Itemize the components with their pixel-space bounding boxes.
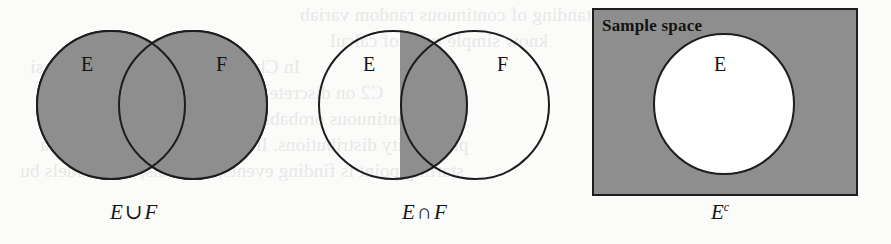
sample-space-label: Sample space bbox=[602, 16, 702, 36]
venn-diagram-figure: complete understanding of continuous ran… bbox=[0, 0, 891, 244]
caption-complement: Ec bbox=[711, 200, 729, 225]
caption-complement-superscript: c bbox=[724, 200, 729, 214]
complement-label-e: E bbox=[714, 53, 726, 76]
caption-complement-base: E bbox=[711, 200, 724, 224]
panel-complement: Sample space E Ec bbox=[0, 0, 891, 244]
